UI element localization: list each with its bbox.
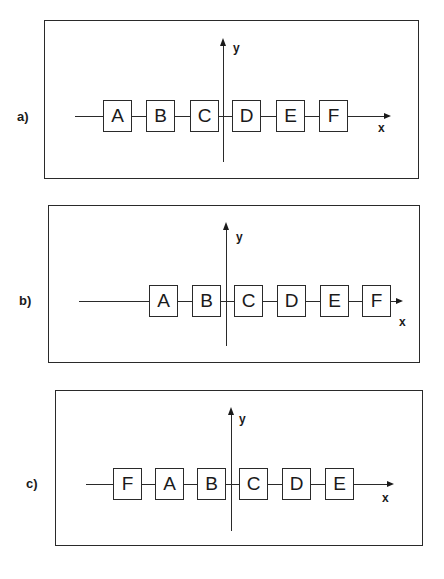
panel-b-y-arrow-icon [223, 222, 229, 230]
panel-b-block-5: E [320, 285, 349, 317]
panel-a-y-axis [223, 44, 224, 162]
panel-c-label: c) [26, 477, 38, 490]
panel-a-x-arrow-icon [384, 113, 391, 119]
panel-b-block-2: B [192, 285, 221, 317]
panel-a-block-1: A [103, 100, 132, 132]
panel-c-x-label: x [382, 492, 389, 504]
panel-a-block-2: B [146, 100, 175, 132]
panel-a-y-arrow-icon [220, 38, 226, 46]
panel-b-block-6: F [362, 285, 391, 317]
panel-c-block-5: D [282, 468, 311, 500]
panel-a-y-label: y [233, 42, 240, 54]
panel-a-block-6: F [319, 100, 348, 132]
panel-c-x-arrow-icon [387, 481, 394, 487]
panel-b-block-1: A [149, 285, 178, 317]
panel-c-y-label: y [239, 413, 246, 425]
panel-b-x-label: x [399, 316, 406, 328]
panel-a-block-5: E [276, 100, 305, 132]
panel-c-block-6: E [325, 468, 354, 500]
panel-a-x-label: x [378, 122, 385, 134]
panel-b-block-4: D [277, 285, 306, 317]
panel-c-y-arrow-icon [228, 407, 234, 415]
panel-b-y-label: y [236, 231, 243, 243]
panel-a-block-3: C [190, 100, 219, 132]
panel-a-label: a) [17, 110, 29, 123]
panel-b-x-arrow-icon [396, 298, 403, 304]
panel-c-block-2: A [155, 468, 184, 500]
panel-b-y-axis [226, 228, 227, 346]
panel-b-frame [48, 205, 420, 363]
panel-c-block-4: C [239, 468, 268, 500]
panel-c-y-axis [231, 413, 232, 531]
panel-a-block-4: D [232, 100, 261, 132]
panel-b-label: b) [19, 294, 31, 307]
figure: a) y x A B C D E F b) y x A B C D E F [0, 0, 444, 579]
panel-c-block-3: B [197, 468, 226, 500]
panel-b-block-3: C [234, 285, 263, 317]
panel-c-block-1: F [113, 468, 142, 500]
